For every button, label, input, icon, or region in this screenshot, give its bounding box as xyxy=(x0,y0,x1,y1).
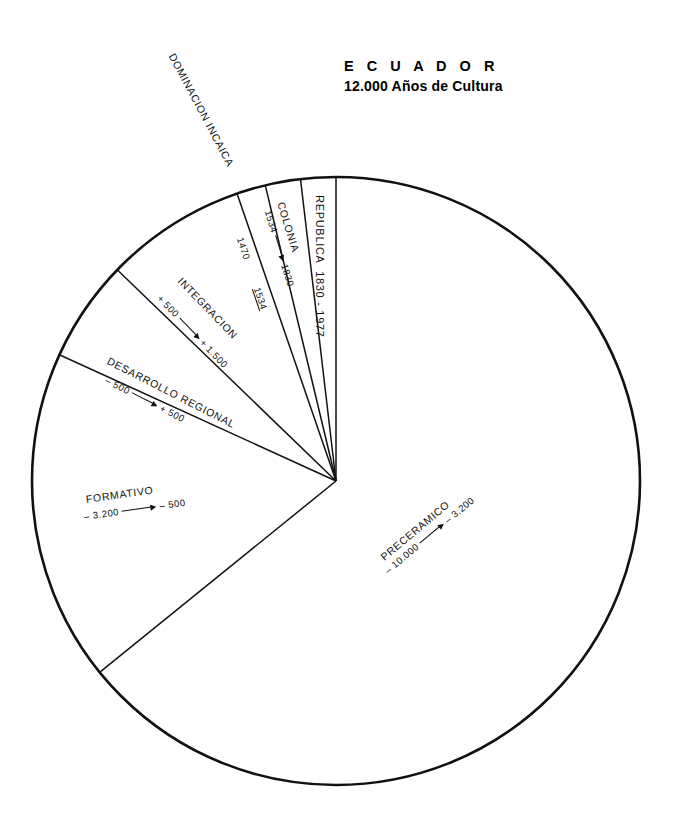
page-title: E C U A D O R xyxy=(344,58,503,74)
slice-label-republica: REPUBLICA 1830 - 1977 xyxy=(314,195,326,338)
desarrollo-arrow-head-icon xyxy=(151,401,159,409)
chart-title-block: E C U A D O R 12.000 Años de Cultura xyxy=(344,58,503,94)
colonia-arrow-shaft xyxy=(275,235,282,256)
slice-label-republica-text: REPUBLICA xyxy=(314,195,326,264)
page-subtitle: 12.000 Años de Cultura xyxy=(344,78,503,94)
slice-divider-desarrollo-formativo xyxy=(59,355,336,481)
formativo-arrow-shaft xyxy=(122,507,152,512)
integracion-arrow-head-icon xyxy=(193,332,201,340)
colonia-arrow-head-icon xyxy=(279,255,286,262)
pie-chart-svg xyxy=(0,0,677,835)
formativo-arrow-head-icon xyxy=(150,503,157,510)
chart-canvas: E C U A D O R 12.000 Años de Cultura DOM… xyxy=(0,0,677,835)
republica-range-text: 1830 - 1977 xyxy=(314,271,326,337)
